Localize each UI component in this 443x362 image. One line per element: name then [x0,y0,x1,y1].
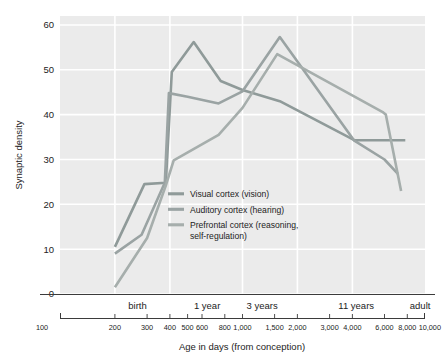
x-axis-band-label: 11 years [338,300,374,311]
x-axis-tick-label: 500 [182,323,194,332]
x-axis-tick-label: 1,000 [233,323,251,332]
legend-label-continued: self-regulation) [190,231,247,241]
y-axis-tick-labels: 6050403020100 [43,19,54,299]
x-axis-tick-labels: 1002003004005006008001,0001,5002,0003,00… [36,323,441,332]
x-axis-tick-label: 8,000 [398,323,416,332]
y-axis-tick-label: 60 [43,19,54,30]
x-axis-tick-label: 4,000 [343,323,361,332]
x-axis-tick-label: 6,000 [375,323,393,332]
legend-label: Prefrontal cortex (reasoning, [190,220,298,230]
x-axis-band-label: 1 year [194,300,220,311]
legend-label: Visual cortex (vision) [190,189,269,199]
x-axis-tick-label: 2,000 [288,323,306,332]
legend-label: Auditory cortex (hearing) [190,205,284,215]
y-axis-tick-label: 40 [43,109,54,120]
y-axis-title: Synaptic density [13,120,24,189]
x-axis-tick-label: 800 [219,323,231,332]
y-axis-tick-label: 20 [43,199,54,210]
x-axis-title: Age in days (from conception) [179,341,305,352]
x-axis-tick-label: 10,000 [419,323,441,332]
synaptic-density-chart: 6050403020100 Synaptic density birth1 ye… [0,0,443,362]
x-axis-band-label: 3 years [247,300,278,311]
x-axis-band-label: adult [410,300,431,311]
x-axis-tick-label: 600 [196,323,208,332]
x-axis-band-label: birth [128,300,146,311]
y-axis-tick-label: 0 [49,288,54,299]
x-axis-tick-label: 400 [164,323,176,332]
y-axis-tick-label: 10 [43,244,54,255]
x-axis-tick-label: 200 [109,323,121,332]
chart-svg: 6050403020100 Synaptic density birth1 ye… [0,0,443,362]
x-axis-tick-label: 1,500 [265,323,283,332]
x-axis-tick-label: 3,000 [320,323,338,332]
y-axis-tick-label: 50 [43,64,54,75]
x-axis-tick-label: 300 [141,323,153,332]
x-axis-ruler [60,313,425,319]
x-axis-band-labels: birth1 year3 years11 yearsadult [128,300,430,311]
y-axis-tick-label: 30 [43,154,54,165]
x-axis-tick-label: 100 [36,323,48,332]
